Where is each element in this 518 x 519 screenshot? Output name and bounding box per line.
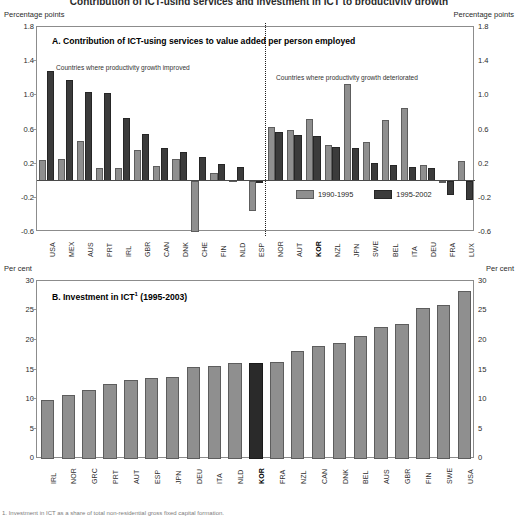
- panel-a-unit-right: Percentage points: [454, 10, 514, 19]
- panel-b-xlabel-KOR: KOR: [258, 468, 265, 484]
- bar-NZL-1995-2002: [332, 147, 339, 181]
- bar-AUS-1990-1995: [77, 141, 84, 181]
- bar-CHE-1990-1995: [191, 181, 198, 232]
- panel-a-ytick-0.6: 0.6: [8, 125, 34, 134]
- bar-GRC: [82, 390, 96, 459]
- bar-ESP-1990-1995: [249, 181, 256, 211]
- panel-b-ytick-right-30: 30: [478, 276, 506, 285]
- bar-NLD: [228, 363, 242, 459]
- bar-CHE-1995-2002: [199, 157, 206, 181]
- panel-a-ytick--0.6: -0.6: [8, 227, 34, 236]
- panel-a-ytick-1.8: 1.8: [8, 22, 34, 31]
- panel-b-xlabel-DNK: DNK: [342, 469, 349, 484]
- panel-b-xlabel-AUT: AUT: [133, 470, 140, 484]
- legend-swatch-icon: [296, 190, 314, 199]
- panel-a-xlabel-KOR: KOR: [315, 241, 322, 257]
- legend-swatch-icon: [374, 190, 392, 199]
- panel-b-ytick-right-25: 25: [478, 305, 506, 314]
- panel-a-xlabel-FRA: FRA: [449, 243, 456, 257]
- bar-KOR: [249, 363, 263, 459]
- panel-a-ytick-right-0.2: 0.2: [478, 159, 506, 168]
- bar-BEL-1995-2002: [390, 165, 397, 180]
- bar-IRL-1995-2002: [123, 118, 130, 180]
- bar-FRA-1995-2002: [447, 181, 454, 196]
- bar-SWE-1990-1995: [363, 142, 370, 180]
- bar-AUS-1995-2002: [85, 92, 92, 181]
- panel-b-ytick-right-0: 0: [478, 453, 506, 462]
- panel-a-xlabel-NZL: NZL: [334, 243, 341, 257]
- bar-SWE: [437, 305, 451, 459]
- panel-b-ytick-right-15: 15: [478, 365, 506, 374]
- bar-ESP: [145, 378, 159, 459]
- bar-FIN-1995-2002: [218, 164, 225, 181]
- panel-a-zero-line: [37, 180, 475, 181]
- panel-a-ytick-1.4: 1.4: [8, 56, 34, 65]
- panel-a-xlabel-ESP: ESP: [258, 243, 265, 257]
- bar-GBR-1995-2002: [142, 134, 149, 181]
- bar-DEU: [187, 367, 201, 459]
- panel-b-ytick-20: 20: [8, 335, 34, 344]
- panel-b-xlabel-DEU: DEU: [196, 469, 203, 484]
- bar-NOR: [62, 395, 76, 459]
- bar-SWE-1995-2002: [371, 163, 378, 181]
- bar-ITA: [208, 366, 222, 459]
- panel-b-xlabel-NZL: NZL: [300, 470, 307, 484]
- panel-a-xlabel-ITA: ITA: [411, 246, 418, 257]
- legend-item-1995-2002: 1995-2002: [374, 190, 431, 199]
- bar-USA: [458, 291, 472, 459]
- panel-a-note-left: Countries where productivity growth impr…: [56, 64, 190, 71]
- panel-a-xlabel-AUT: AUT: [296, 243, 303, 257]
- panel-a-ytick-right-1.8: 1.8: [478, 22, 506, 31]
- bar-NZL-1990-1995: [325, 145, 332, 181]
- bar-DNK: [333, 343, 347, 459]
- bar-DEU-1990-1995: [420, 165, 427, 181]
- bar-BEL: [354, 336, 368, 459]
- panel-b-title: B. Investment in ICT1 (1995-2003): [52, 291, 187, 302]
- panel-b-xlabel-ITA: ITA: [216, 473, 223, 484]
- panel-a-xlabel-DNK: DNK: [182, 242, 189, 257]
- figure-title-fragment: Contribution of ICT-using services and i…: [0, 0, 518, 5]
- panel-a-title: A. Contribution of ICT-using services to…: [52, 36, 355, 46]
- bar-NOR-1990-1995: [268, 127, 275, 181]
- bar-NZL: [291, 351, 305, 459]
- bar-AUT: [124, 380, 138, 459]
- panel-b-xlabel-USA: USA: [467, 469, 474, 484]
- panel-a-note-right: Countries where productivity growth dete…: [276, 74, 418, 81]
- panel-b-xlabel-NOR: NOR: [70, 468, 77, 484]
- bar-NLD-1995-2002: [237, 167, 244, 181]
- bar-PRT-1990-1995: [96, 168, 103, 181]
- bar-FRA-1990-1995: [439, 181, 446, 183]
- panel-a-xlabel-JPN: JPN: [353, 243, 360, 257]
- panel-a-legend: 1990-1995 1995-2002: [296, 190, 432, 199]
- bar-CAN: [312, 346, 326, 459]
- panel-a-xlabel-LUX: LUX: [468, 243, 475, 257]
- panel-a-xlabel-FIN: FIN: [220, 245, 227, 257]
- legend-label-1995-2002: 1995-2002: [396, 190, 431, 199]
- panel-a-ytick-right-0.6: 0.6: [478, 125, 506, 134]
- bar-DNK-1990-1995: [172, 159, 179, 180]
- panel-a-xlabel-NOR: NOR: [277, 241, 284, 257]
- bar-AUT-1995-2002: [294, 135, 301, 180]
- bar-IRL: [41, 400, 55, 459]
- figure-footnote-fragment: 1. Investment in ICT as a share of total…: [2, 510, 302, 519]
- bar-KOR-1995-2002: [313, 136, 320, 180]
- bar-FRA: [270, 362, 284, 459]
- panel-a-ytick-1.0: 1.0: [8, 90, 34, 99]
- panel-a-xlabel-CHE: CHE: [201, 242, 208, 257]
- bar-GBR-1990-1995: [134, 150, 141, 181]
- panel-a-xlabel-CAN: CAN: [163, 242, 170, 257]
- panel-b-ytick-5: 5: [8, 424, 34, 433]
- bar-PRT-1995-2002: [104, 93, 111, 181]
- bar-ESP-1995-2002: [256, 181, 263, 183]
- panel-a-ytick-right--0.2: -0.2: [478, 193, 506, 202]
- panel-a-ytick-right-1.4: 1.4: [478, 56, 506, 65]
- panel-b-ytick-25: 25: [8, 305, 34, 314]
- panel-b-ytick-0: 0: [8, 453, 34, 462]
- panel-a-xlabel-IRL: IRL: [125, 246, 132, 257]
- panel-a-plot-area: [36, 26, 474, 231]
- panel-b-plot-area: [36, 280, 474, 458]
- bar-BEL-1990-1995: [382, 120, 389, 181]
- panel-a-xlabel-GBR: GBR: [144, 242, 151, 257]
- legend-label-1990-1995: 1990-1995: [318, 190, 353, 199]
- bar-AUT-1990-1995: [287, 130, 294, 181]
